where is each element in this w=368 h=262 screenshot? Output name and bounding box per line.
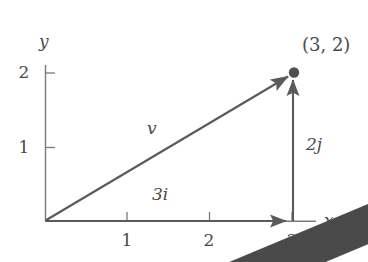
- x-component-coefficient: 3: [152, 184, 163, 204]
- j-hat-symbol: j: [317, 136, 323, 153]
- x-tick-label-1: 1: [117, 232, 137, 249]
- vector-diagram-figure: y x 2 1 1 2 3 (3, 2) v 3 i: [0, 0, 368, 262]
- point-coordinate-label: (3, 2): [302, 36, 350, 54]
- x-axis-label: x: [324, 212, 334, 229]
- x-tick-label-2: 2: [199, 232, 219, 249]
- i-hat-symbol: i: [163, 186, 169, 203]
- vector-v-label: v: [147, 120, 158, 137]
- vector-2j-label: 2 j: [306, 136, 323, 153]
- x-tick-label-3: 3: [282, 232, 302, 249]
- y-tick-label-1: 1: [14, 139, 34, 156]
- point-3-2-dot: [289, 67, 299, 77]
- y-axis-label: y: [39, 33, 49, 50]
- vector-v-symbol: v: [147, 120, 158, 137]
- y-tick-label-2: 2: [14, 64, 34, 81]
- y-component-coefficient: 2: [306, 134, 317, 154]
- vector-3i-label: 3 i: [152, 186, 169, 203]
